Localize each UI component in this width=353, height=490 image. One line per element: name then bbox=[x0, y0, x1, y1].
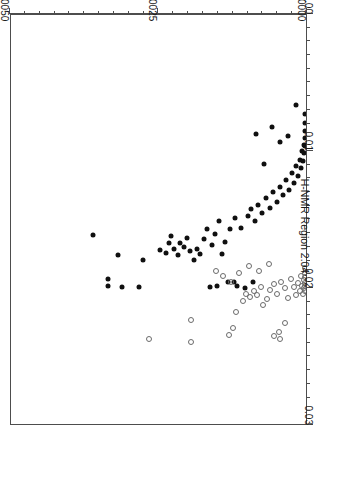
x-tick-minor bbox=[24, 11, 25, 14]
data-point bbox=[289, 171, 294, 176]
data-point bbox=[248, 206, 253, 211]
y-tick-minor bbox=[307, 123, 310, 124]
x-tick-label: 0.0025 bbox=[148, 0, 159, 21]
data-point bbox=[208, 285, 213, 290]
data-point bbox=[188, 339, 194, 345]
data-point bbox=[164, 250, 169, 255]
x-tick-minor bbox=[143, 11, 144, 14]
data-point bbox=[246, 263, 252, 269]
data-point bbox=[187, 249, 192, 254]
x-tick-minor bbox=[276, 11, 277, 14]
x-tick-minor bbox=[232, 11, 233, 14]
data-point bbox=[220, 273, 226, 279]
data-point bbox=[197, 252, 202, 257]
data-point bbox=[141, 257, 146, 262]
data-point bbox=[185, 235, 190, 240]
x-tick-minor bbox=[128, 11, 129, 14]
y-tick-label: 0.03 bbox=[304, 406, 315, 425]
y-tick-minor bbox=[307, 369, 310, 370]
data-point bbox=[277, 336, 283, 342]
data-point bbox=[247, 294, 253, 300]
data-point bbox=[215, 283, 220, 288]
x-tick-minor bbox=[172, 11, 173, 14]
y-tick-minor bbox=[307, 82, 310, 83]
data-point bbox=[262, 161, 267, 166]
data-point bbox=[212, 231, 217, 236]
data-point bbox=[168, 234, 173, 239]
x-tick-label: 0.0000 bbox=[296, 0, 307, 21]
data-point bbox=[282, 320, 288, 326]
data-point bbox=[228, 279, 234, 285]
data-point bbox=[223, 239, 228, 244]
data-point bbox=[278, 185, 283, 190]
data-point bbox=[264, 296, 270, 302]
y-tick-minor bbox=[307, 328, 310, 329]
data-point bbox=[157, 248, 162, 253]
data-point bbox=[270, 124, 275, 129]
data-point bbox=[106, 283, 111, 288]
x-tick-label: 0.0050 bbox=[0, 0, 10, 21]
y-tick-minor bbox=[307, 27, 310, 28]
data-point bbox=[171, 246, 176, 251]
data-point bbox=[267, 287, 273, 293]
data-point bbox=[285, 295, 291, 301]
data-point bbox=[260, 211, 265, 216]
x-tick-minor bbox=[217, 11, 218, 14]
x-tick-minor bbox=[54, 11, 55, 14]
data-point bbox=[201, 237, 206, 242]
data-point bbox=[234, 309, 240, 315]
x-tick-minor bbox=[247, 11, 248, 14]
data-point bbox=[191, 257, 196, 262]
data-point bbox=[175, 253, 180, 258]
data-point bbox=[292, 180, 297, 185]
figure-rotated-content: 0.000.010.020.03 0.00000.00250.0050 H-NM… bbox=[0, 0, 353, 490]
data-point bbox=[294, 102, 299, 107]
x-tick-minor bbox=[261, 11, 262, 14]
data-point bbox=[217, 219, 222, 224]
data-points-layer bbox=[11, 15, 306, 424]
x-tick-minor bbox=[202, 11, 203, 14]
x-tick-minor bbox=[187, 11, 188, 14]
x-tick-minor bbox=[291, 11, 292, 14]
x-tick-minor bbox=[113, 11, 114, 14]
data-point bbox=[182, 245, 187, 250]
data-point bbox=[250, 279, 255, 284]
data-point bbox=[258, 284, 264, 290]
data-point bbox=[210, 242, 215, 247]
x-tick-minor bbox=[39, 11, 40, 14]
y-tick-minor bbox=[307, 109, 310, 110]
data-point bbox=[213, 268, 219, 274]
data-point bbox=[220, 252, 225, 257]
y-tick-minor bbox=[307, 40, 310, 41]
data-point bbox=[282, 285, 288, 291]
data-point bbox=[263, 195, 268, 200]
data-point bbox=[275, 291, 281, 297]
y-tick-minor bbox=[307, 383, 310, 384]
data-point bbox=[286, 187, 291, 192]
data-point bbox=[137, 285, 142, 290]
data-point bbox=[233, 216, 238, 221]
y-tick-minor bbox=[307, 95, 310, 96]
data-point bbox=[115, 253, 120, 258]
data-point bbox=[256, 202, 261, 207]
data-point bbox=[205, 227, 210, 232]
data-point bbox=[188, 317, 194, 323]
data-point bbox=[266, 261, 272, 267]
data-point bbox=[274, 200, 279, 205]
y-tick-minor bbox=[307, 356, 310, 357]
plot-area-frame bbox=[10, 14, 307, 425]
data-point bbox=[267, 205, 272, 210]
y-tick-minor bbox=[307, 410, 310, 411]
data-point bbox=[236, 270, 242, 276]
data-point bbox=[271, 281, 277, 287]
data-point bbox=[271, 190, 276, 195]
data-point bbox=[260, 302, 266, 308]
data-point bbox=[146, 336, 152, 342]
data-point bbox=[276, 329, 282, 335]
data-point bbox=[278, 139, 283, 144]
data-point bbox=[226, 332, 232, 338]
data-point bbox=[252, 219, 257, 224]
data-point bbox=[285, 134, 290, 139]
data-point bbox=[227, 227, 232, 232]
x-tick-minor bbox=[68, 11, 69, 14]
